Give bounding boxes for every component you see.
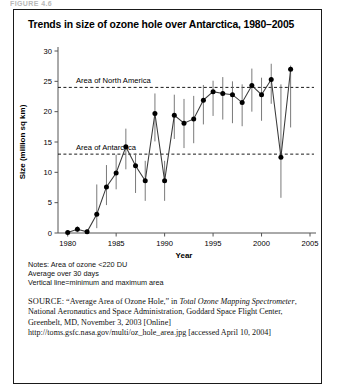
source-label: SOURCE:	[28, 297, 64, 306]
y-tick-label: 5	[48, 198, 52, 207]
figure-container: Trends in size of ozone hole over Antarc…	[13, 9, 322, 384]
data-point	[162, 178, 167, 183]
data-point	[85, 229, 90, 234]
data-point	[211, 89, 216, 94]
data-point	[230, 92, 235, 97]
data-point	[114, 170, 119, 175]
data-point	[182, 121, 187, 126]
x-tick-label: 1985	[108, 239, 125, 248]
data-point	[152, 111, 157, 116]
source-text-part1: “Average Area of Ozone Hole,” in	[64, 297, 179, 306]
data-point	[201, 98, 206, 103]
x-tick-label: 1995	[205, 239, 222, 248]
y-tick-label: 30	[44, 47, 52, 56]
reference-line-label-1: Area of North America	[76, 76, 151, 85]
page-artifact-text: FIGURE 4.6	[10, 0, 70, 7]
x-tick-label: 2000	[253, 239, 270, 248]
data-point	[249, 83, 254, 88]
ozone-hole-line-chart: 051015202530198019851990199520002005Year…	[14, 38, 321, 270]
x-tick-label: 1990	[156, 239, 173, 248]
data-point	[240, 100, 245, 105]
data-point	[94, 212, 99, 217]
data-point	[143, 178, 148, 183]
data-point	[133, 163, 138, 168]
x-tick-label: 2005	[302, 239, 319, 248]
x-tick-label: 1980	[59, 239, 76, 248]
data-point	[269, 77, 274, 82]
data-point	[123, 144, 128, 149]
figure-source: SOURCE: “Average Area of Ozone Hole,” in…	[28, 297, 316, 338]
source-publication-title: Total Ozone Mapping Spectrometer	[179, 297, 294, 306]
data-point	[65, 230, 70, 235]
x-axis-label: Year	[176, 251, 193, 260]
figure-title: Trends in size of ozone hole over Antarc…	[28, 19, 313, 31]
data-point	[288, 67, 293, 72]
y-tick-label: 15	[44, 138, 52, 147]
data-point	[104, 184, 109, 189]
data-point	[259, 92, 264, 97]
y-tick-label: 25	[44, 77, 52, 86]
data-point	[220, 91, 225, 96]
data-point	[75, 227, 80, 232]
note-line-3: Vertical line=minimum and maximum area	[28, 278, 308, 287]
data-point	[278, 155, 283, 160]
note-line-2: Average over 30 days	[28, 269, 308, 278]
y-tick-label: 0	[48, 229, 52, 238]
y-tick-label: 10	[44, 168, 52, 177]
note-line-1: Notes: Area of ozone <220 DU	[28, 260, 308, 269]
y-axis-label: Size (million sq km)	[18, 104, 27, 179]
data-point	[172, 113, 177, 118]
y-tick-label: 20	[44, 107, 52, 116]
chart-plot-area: 051015202530198019851990199520002005Year…	[14, 38, 321, 270]
figure-notes: Notes: Area of ozone <220 DU Average ove…	[28, 260, 308, 287]
data-point	[191, 116, 196, 121]
